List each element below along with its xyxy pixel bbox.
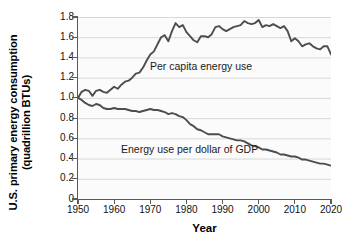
y-tick-mark — [72, 37, 78, 38]
chart-figure: U.S. primary energy consumption (quadril… — [0, 0, 351, 245]
x-tick-label: 1970 — [130, 205, 170, 215]
x-tick-mark — [294, 199, 295, 204]
y-axis-line — [77, 16, 78, 200]
y-tick-mark — [72, 77, 78, 78]
x-tick-label: 2000 — [239, 205, 279, 215]
series-annotation-energy-per-gdp: Energy use per dollar of GDP — [121, 143, 258, 155]
x-tick-label: 2020 — [311, 205, 351, 215]
y-tick-mark — [72, 118, 78, 119]
series-annotation-per-capita: Per capita energy use — [150, 60, 252, 72]
plot-canvas — [78, 17, 331, 199]
x-tick-mark — [186, 199, 187, 204]
plot-area — [78, 17, 331, 199]
x-tick-label: 2010 — [275, 205, 315, 215]
y-tick-mark — [72, 16, 78, 17]
x-tick-mark — [150, 199, 151, 204]
y-tick-mark — [72, 178, 78, 179]
x-tick-label: 1980 — [166, 205, 206, 215]
x-tick-mark — [114, 199, 115, 204]
y-tick-mark — [72, 138, 78, 139]
x-tick-mark — [258, 199, 259, 204]
series-line-per-capita — [78, 20, 331, 98]
x-tick-label: 1950 — [58, 205, 98, 215]
x-tick-mark — [330, 199, 331, 204]
x-tick-label: 1990 — [203, 205, 243, 215]
x-tick-mark — [222, 199, 223, 204]
y-tick-mark — [72, 57, 78, 58]
x-axis-title: Year — [78, 222, 331, 234]
series-line-energy-per-gdp — [78, 98, 331, 166]
x-tick-label: 1960 — [94, 205, 134, 215]
x-tick-mark — [77, 199, 78, 204]
y-tick-mark — [72, 158, 78, 159]
y-tick-mark — [72, 97, 78, 98]
